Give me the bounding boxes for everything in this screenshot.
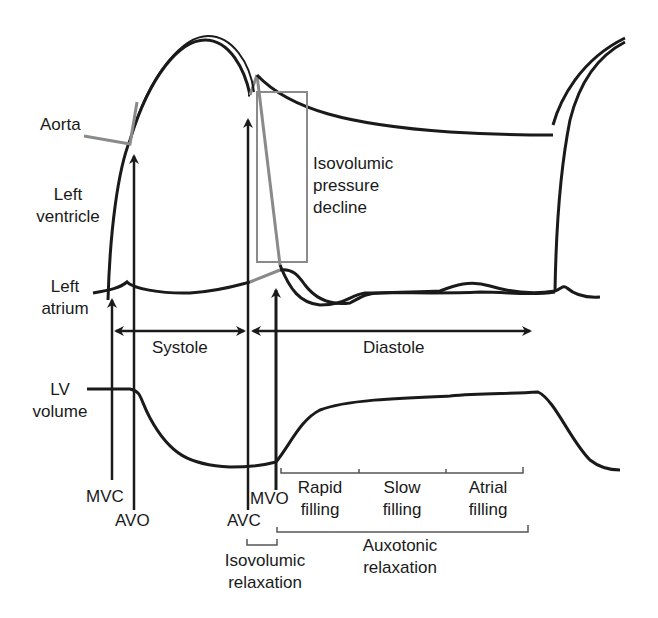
slow-filling-label-2: filling	[372, 500, 432, 520]
valve-event-lines	[112, 120, 276, 510]
cardiac-cycle-diagram: Aorta Left ventricle Left atrium LV volu…	[0, 0, 658, 618]
auxotonic-relaxation-label-1: Auxotonic	[345, 536, 455, 556]
isovolumic-pressure-decline-label-1: Isovolumic	[313, 154, 393, 174]
left-ventricle-label-2: ventricle	[28, 207, 108, 227]
slow-filling-label-1: Slow	[372, 478, 432, 498]
mvc-label: MVC	[86, 487, 124, 507]
lv-volume-curve	[87, 389, 620, 470]
isovolumic-relaxation-bracket	[247, 539, 277, 545]
filling-phase-bracket	[281, 467, 523, 473]
auxotonic-relaxation-bracket	[277, 525, 528, 532]
avo-label: AVO	[115, 511, 150, 531]
systole-label: Systole	[152, 338, 208, 358]
left-ventricle-label-1: Left	[28, 185, 108, 205]
lv-volume-label-2: volume	[25, 402, 95, 422]
isovolumic-relaxation-label-2: relaxation	[210, 573, 320, 593]
isovolumic-pressure-decline-box	[257, 92, 307, 262]
atrial-filling-label-1: Atrial	[458, 478, 518, 498]
lv-volume-label-1: LV	[35, 380, 85, 400]
mvo-label: MVO	[250, 489, 289, 509]
isovolumic-pressure-decline-label-2: pressure	[313, 176, 379, 196]
aorta-pressure-curve	[84, 36, 553, 144]
avc-label: AVC	[227, 511, 261, 531]
auxotonic-relaxation-label-2: relaxation	[345, 558, 455, 578]
isovolumic-pressure-decline-label-3: decline	[313, 198, 367, 218]
rapid-filling-label-1: Rapid	[290, 478, 350, 498]
left-atrium-label-2: atrium	[30, 299, 100, 319]
atrial-filling-label-2: filling	[458, 500, 518, 520]
isovolumic-relaxation-label-1: Isovolumic	[210, 551, 320, 571]
rapid-filling-label-2: filling	[290, 500, 350, 520]
aorta-label: Aorta	[40, 115, 81, 135]
diastole-label: Diastole	[363, 338, 424, 358]
left-atrium-label-1: Left	[30, 277, 100, 297]
